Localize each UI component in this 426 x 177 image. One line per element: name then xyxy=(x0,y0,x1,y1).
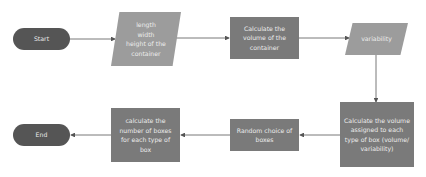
input-dimensions-data: length width height of the container xyxy=(111,12,181,66)
random-choice-label: Random choice of boxes xyxy=(236,126,293,145)
random-choice-process: Random choice of boxes xyxy=(230,119,299,151)
start-terminator: Start xyxy=(13,28,70,50)
dim-width: width xyxy=(126,30,166,40)
end-label: End xyxy=(36,130,48,140)
calc-volume-per-type-label: Calculate the volume assigned to each ty… xyxy=(344,116,410,154)
start-label: Start xyxy=(34,34,49,44)
input-dimensions-text: length width height of the container xyxy=(126,20,166,58)
dim-length: length xyxy=(126,20,166,30)
calc-container-volume-label: Calculate the volume of the container xyxy=(236,24,293,53)
calc-number-boxes-process: calculate the number of boxes for each t… xyxy=(111,108,180,162)
end-terminator: End xyxy=(13,124,70,146)
variability-data: variability xyxy=(345,23,408,55)
calc-volume-per-type-process: Calculate the volume assigned to each ty… xyxy=(340,102,414,167)
calc-container-volume-process: Calculate the volume of the container xyxy=(230,17,299,59)
dim-height: height of the xyxy=(126,39,166,49)
dim-container: container xyxy=(126,49,166,59)
calc-number-boxes-label: calculate the number of boxes for each t… xyxy=(117,116,174,154)
variability-label: variability xyxy=(361,34,392,44)
